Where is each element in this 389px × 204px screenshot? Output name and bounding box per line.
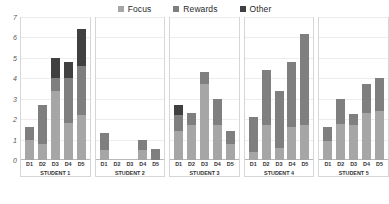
bar[interactable] — [336, 99, 345, 160]
bar-segment-focus[interactable] — [100, 150, 109, 160]
bar-segment-focus[interactable] — [187, 125, 196, 160]
bar-segment-rewards[interactable] — [375, 78, 384, 111]
stacked-bar-chart: FocusRewardsOther 76543210 D1D2D3D4D5STU… — [0, 0, 389, 204]
bar[interactable] — [151, 149, 160, 160]
bar-segment-other[interactable] — [51, 58, 60, 78]
bar-segment-rewards[interactable] — [200, 72, 209, 84]
bar[interactable] — [287, 62, 296, 160]
bar[interactable] — [226, 131, 235, 160]
bar-segment-focus[interactable] — [200, 84, 209, 160]
category-label: D2 — [261, 160, 272, 169]
bar[interactable] — [323, 127, 332, 160]
bar-group — [170, 17, 239, 160]
category-label: D1 — [173, 160, 184, 169]
category-label: D5 — [76, 160, 87, 169]
category-label: D2 — [186, 160, 197, 169]
plot-area: 76543210 D1D2D3D4D5STUDENT 1D1D2D3D4D5ST… — [0, 17, 389, 177]
bar-segment-focus[interactable] — [64, 123, 73, 160]
category-label: D2 — [335, 160, 346, 169]
bar-segment-rewards[interactable] — [64, 78, 73, 123]
bar-segment-focus[interactable] — [51, 91, 60, 160]
bar-segment-rewards[interactable] — [300, 34, 309, 125]
category-label-row: D1D2D3D4D5 — [244, 160, 315, 169]
bar-segment-rewards[interactable] — [336, 99, 345, 125]
bar-segment-rewards[interactable] — [226, 131, 235, 143]
bar[interactable] — [200, 72, 209, 160]
panel-title: STUDENT 1 — [20, 169, 91, 177]
bar-segment-focus[interactable] — [323, 141, 332, 160]
legend-item-other[interactable]: Other — [240, 5, 272, 14]
bar-segment-focus[interactable] — [38, 144, 47, 160]
bar-segment-focus[interactable] — [77, 115, 86, 160]
bar-segment-rewards[interactable] — [151, 149, 160, 160]
bar-segment-rewards[interactable] — [187, 113, 196, 125]
y-axis-tick: 4 — [13, 75, 17, 82]
bar-segment-focus[interactable] — [287, 127, 296, 160]
legend-item-focus[interactable]: Focus — [118, 5, 152, 14]
bar-segment-rewards[interactable] — [323, 127, 332, 140]
bar-segment-rewards[interactable] — [25, 127, 34, 139]
bar-group — [245, 17, 314, 160]
bar-segment-focus[interactable] — [375, 111, 384, 160]
panel-title: STUDENT 4 — [244, 169, 315, 177]
bar-segment-rewards[interactable] — [262, 70, 271, 125]
bar[interactable] — [213, 99, 222, 160]
bar[interactable] — [64, 62, 73, 160]
bar[interactable] — [100, 133, 109, 160]
panel-plot-region — [318, 17, 389, 160]
bar-segment-rewards[interactable] — [362, 84, 371, 113]
bar-segment-focus[interactable] — [174, 131, 183, 160]
bar-segment-focus[interactable] — [275, 148, 284, 160]
bar-segment-rewards[interactable] — [51, 78, 60, 90]
bar[interactable] — [362, 84, 371, 160]
bar-segment-rewards[interactable] — [138, 140, 147, 150]
bar[interactable] — [38, 105, 47, 160]
bar-segment-rewards[interactable] — [249, 117, 258, 152]
bar-segment-rewards[interactable] — [77, 66, 86, 115]
bar-segment-focus[interactable] — [25, 140, 34, 160]
bar-segment-focus[interactable] — [213, 125, 222, 160]
category-label: D4 — [212, 160, 223, 169]
category-label: D5 — [299, 160, 310, 169]
bar-segment-rewards[interactable] — [100, 133, 109, 149]
y-axis-tick: 7 — [13, 14, 17, 21]
bar-segment-focus[interactable] — [300, 125, 309, 160]
legend-swatch-icon — [240, 6, 246, 12]
bar-segment-rewards[interactable] — [275, 91, 284, 148]
bar-segment-focus[interactable] — [226, 144, 235, 160]
bar-segment-focus[interactable] — [138, 150, 147, 160]
bar-segment-focus[interactable] — [249, 152, 258, 160]
category-label: D1 — [99, 160, 110, 169]
bar[interactable] — [25, 127, 34, 160]
legend-item-rewards[interactable]: Rewards — [173, 5, 217, 14]
bar-segment-other[interactable] — [174, 105, 183, 115]
bar-segment-rewards[interactable] — [213, 99, 222, 126]
bar-segment-rewards[interactable] — [349, 114, 358, 125]
bar[interactable] — [77, 29, 86, 160]
bar-segment-focus[interactable] — [362, 113, 371, 160]
category-label-row: D1D2D3D4D5 — [95, 160, 166, 169]
category-label: D5 — [374, 160, 385, 169]
category-label: D3 — [348, 160, 359, 169]
bar[interactable] — [187, 113, 196, 160]
bar[interactable] — [349, 114, 358, 160]
bar-segment-rewards[interactable] — [38, 105, 47, 144]
bar-segment-other[interactable] — [64, 62, 73, 78]
bar[interactable] — [262, 70, 271, 160]
bar[interactable] — [249, 117, 258, 160]
bar-segment-focus[interactable] — [336, 124, 345, 160]
bar[interactable] — [300, 34, 309, 160]
bar-segment-rewards[interactable] — [174, 115, 183, 131]
bar-segment-focus[interactable] — [349, 125, 358, 160]
bar[interactable] — [375, 78, 384, 160]
bar[interactable] — [275, 91, 284, 160]
bar[interactable] — [51, 58, 60, 160]
panel-plot-region — [244, 17, 315, 160]
bar[interactable] — [174, 105, 183, 160]
panel-student-4: D1D2D3D4D5STUDENT 4 — [244, 17, 315, 177]
bar-segment-focus[interactable] — [262, 125, 271, 160]
bar-segment-other[interactable] — [77, 29, 86, 66]
bar-segment-rewards[interactable] — [287, 62, 296, 127]
bar[interactable] — [138, 140, 147, 160]
category-label: D4 — [361, 160, 372, 169]
